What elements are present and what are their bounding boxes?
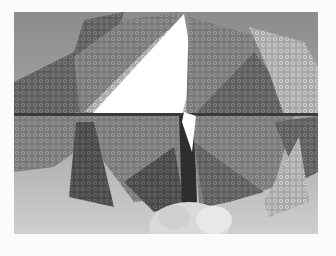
center-crease [14, 113, 318, 116]
origami-photo [14, 12, 318, 234]
origami-scene [14, 12, 318, 234]
